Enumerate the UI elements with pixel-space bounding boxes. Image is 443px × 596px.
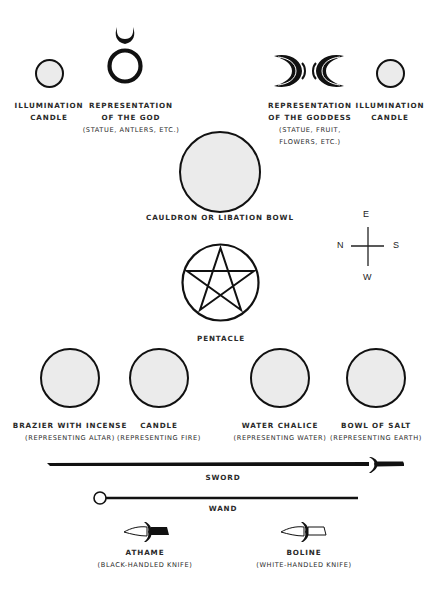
athame-label: ATHAME (BLACK-HANDLED KNIFE): [98, 547, 193, 571]
cauldron-label: CAULDRON OR LIBATION BOWL: [146, 212, 294, 224]
label-line: (STATUE, ANTLERS, ETC.): [83, 124, 180, 136]
compass-left-letter: N: [337, 240, 344, 250]
cauldron-icon: [179, 131, 261, 213]
compass-bottom-letter: W: [363, 272, 372, 282]
boline-label: BOLINE (WHITE-HANDLED KNIFE): [256, 547, 351, 571]
water-chalice-label: WATER CHALICE (REPRESENTING WATER): [234, 420, 327, 444]
label-line: OF THE GODDESS: [268, 112, 352, 124]
label-line: ATHAME: [98, 547, 193, 559]
label-line: (REPRESENTING WATER): [234, 432, 327, 444]
candle-fire-icon: [129, 348, 189, 408]
triple-moon-icon: [272, 53, 346, 89]
label-line: ILLUMINATION: [15, 100, 84, 112]
god-label: REPRESENTATION OF THE GOD (STATUE, ANTLE…: [83, 100, 180, 136]
bowl-of-salt-icon: [346, 348, 406, 408]
label-line: CANDLE: [356, 112, 425, 124]
label-line: (REPRESENTING EARTH): [330, 432, 422, 444]
label-line: (REPRESENTING FIRE): [117, 432, 201, 444]
brazier-icon: [40, 348, 100, 408]
pentacle-icon: [180, 242, 261, 323]
label-line: REPRESENTATION: [83, 100, 180, 112]
label-line: BOWL OF SALT: [330, 420, 422, 432]
label-line: OF THE GOD: [83, 112, 180, 124]
label-line: BRAZIER WITH INCENSE: [13, 420, 127, 432]
boline-icon: [280, 521, 328, 543]
label-line: (WHITE-HANDLED KNIFE): [256, 559, 351, 571]
pentacle-label: PENTACLE: [197, 333, 245, 345]
label-line: BOLINE: [256, 547, 351, 559]
label-line: CANDLE: [117, 420, 201, 432]
illumination-candle-left-label: ILLUMINATION CANDLE: [15, 100, 84, 124]
label-line: (BLACK-HANDLED KNIFE): [98, 559, 193, 571]
brazier-label: BRAZIER WITH INCENSE (REPRESENTING ALTAR…: [13, 420, 127, 444]
label-line: CANDLE: [15, 112, 84, 124]
goddess-label: REPRESENTATION OF THE GODDESS (STATUE, F…: [268, 100, 352, 148]
illumination-candle-left-icon: [35, 59, 64, 88]
compass-cross-icon: [351, 226, 385, 268]
sword-label: SWORD: [205, 472, 240, 484]
label-line: WATER CHALICE: [234, 420, 327, 432]
horned-god-icon: [100, 18, 150, 90]
label-line: FLOWERS, ETC.): [268, 136, 352, 148]
compass-top-letter: E: [363, 209, 369, 219]
label-line: (REPRESENTING ALTAR): [13, 432, 127, 444]
water-chalice-icon: [250, 348, 310, 408]
illumination-candle-right-label: ILLUMINATION CANDLE: [356, 100, 425, 124]
illumination-candle-right-icon: [376, 59, 405, 88]
athame-icon: [123, 521, 171, 543]
compass-right-letter: S: [393, 240, 399, 250]
bowl-of-salt-label: BOWL OF SALT (REPRESENTING EARTH): [330, 420, 422, 444]
label-line: ILLUMINATION: [356, 100, 425, 112]
label-line: (STATUE, FRUIT,: [268, 124, 352, 136]
candle-fire-label: CANDLE (REPRESENTING FIRE): [117, 420, 201, 444]
wand-label: WAND: [209, 503, 238, 515]
label-line: REPRESENTATION: [268, 100, 352, 112]
